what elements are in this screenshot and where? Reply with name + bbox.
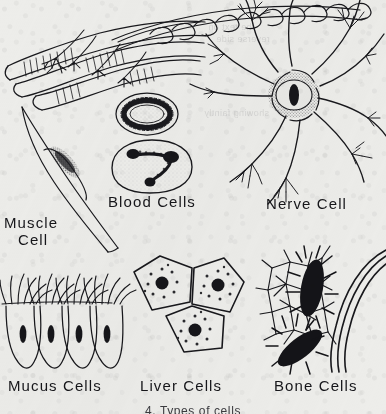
- figure-caption: 4. Types of cells: [0, 404, 386, 414]
- label-muscle-cell-line2: Cell: [4, 231, 58, 248]
- label-muscle-cell-line1: Muscle: [4, 214, 58, 231]
- bone-cells-drawing: [256, 246, 386, 374]
- smooth-muscle-nucleus: [46, 142, 84, 181]
- nerve-fiber-bundle-drawing: [112, 3, 371, 50]
- nerve-cell-nucleus: [268, 72, 320, 118]
- label-muscle-cell: Muscle Cell: [4, 214, 58, 249]
- label-blood-cells: Blood Cells: [108, 194, 196, 211]
- osteocyte-lower: [273, 323, 328, 372]
- cell-types-figure-plate: the text on reverse side showing faintly…: [0, 0, 386, 414]
- liver-cells-drawing: [134, 256, 244, 352]
- label-nerve-cell: Nerve Cell: [266, 196, 347, 213]
- white-blood-cell-drawing: [112, 140, 192, 193]
- label-liver-cells: Liver Cells: [140, 378, 222, 395]
- label-mucus-cells: Mucus Cells: [8, 378, 102, 395]
- mucus-cells-drawing: [0, 274, 136, 368]
- label-bone-cells: Bone Cells: [274, 378, 358, 395]
- red-blood-cell-drawing: [116, 93, 178, 135]
- liver-cell-granules: [144, 264, 235, 346]
- striated-muscle-fibers-drawing: [5, 21, 206, 110]
